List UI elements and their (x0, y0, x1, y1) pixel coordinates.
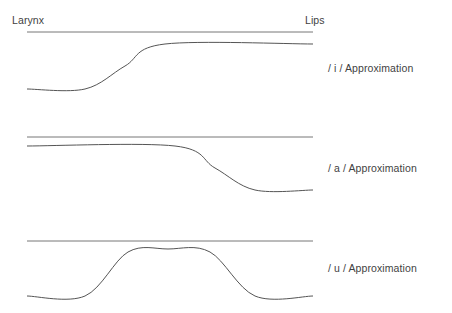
panel-i-tongue-curve (27, 42, 313, 90)
panel-label-i: / i / Approximation (328, 62, 413, 74)
panel-label-u: / u / Approximation (328, 262, 417, 274)
panel-a-curves (27, 137, 313, 192)
panel-label-a: / a / Approximation (328, 162, 417, 174)
panel-u-curves (27, 241, 313, 299)
panel-a-tongue-curve (27, 144, 313, 191)
panel-i-curves (27, 32, 313, 91)
panel-u-tongue-curve (27, 248, 313, 300)
figure-canvas: Larynx Lips / i / Approximation / a / Ap… (0, 0, 452, 313)
